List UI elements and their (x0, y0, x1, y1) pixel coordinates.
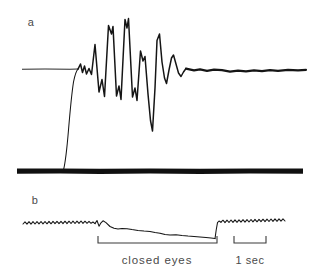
panel-a-rising-ramp (64, 69, 79, 170)
panel-label-b: b (32, 194, 38, 206)
closed-eyes-label: closed eyes (122, 254, 193, 266)
figure-labels: a b closed eyes 1 sec (28, 16, 265, 266)
panel-b-group (23, 219, 285, 239)
panel-b-return-step (215, 221, 221, 239)
panel-a-oscillation-trace (78, 19, 186, 132)
panel-b-drift (95, 221, 215, 239)
annotation-brackets (98, 236, 266, 243)
figure-canvas: a b closed eyes 1 sec (0, 0, 319, 274)
panel-label-a: a (28, 16, 35, 28)
panel-b-ripple-right (221, 219, 285, 223)
figure-root: a b closed eyes 1 sec (0, 0, 319, 274)
time-scale-bracket (234, 236, 266, 243)
panel-b-ripple-left (23, 221, 95, 224)
time-scale-label: 1 sec (236, 254, 265, 266)
panel-a-settled-baseline (186, 69, 306, 72)
panel-a-group (17, 19, 306, 172)
